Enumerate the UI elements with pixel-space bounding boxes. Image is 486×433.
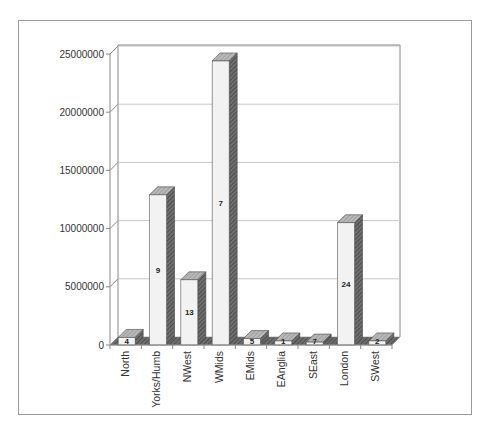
bar-wmids: 7 <box>212 53 237 345</box>
bar-chart-3d: 0500000010000000150000002000000025000000… <box>0 0 486 433</box>
x-category-label: WMids <box>213 351 225 383</box>
bar-nwest: 13 <box>181 272 206 345</box>
y-tick-label: 25000000 <box>60 49 105 60</box>
x-category-label: SEast <box>307 351 319 379</box>
bar-data-label: 1 <box>281 337 286 346</box>
bar-data-label: 4 <box>124 337 129 346</box>
x-category-label: EAnglia <box>275 351 287 387</box>
y-tick-label: 0 <box>98 340 104 351</box>
bar-data-label: 13 <box>185 308 194 317</box>
bar-london: 24 <box>338 215 363 345</box>
bar-data-label: 24 <box>342 280 351 289</box>
x-category-label: London <box>338 351 350 386</box>
x-axis: NorthYorks/HumbNWestWMidsEMidsEAngliaSEa… <box>110 345 392 408</box>
x-category-label: NWest <box>181 351 193 382</box>
y-tick-label: 15000000 <box>60 165 105 176</box>
bar-data-label: 2 <box>375 337 380 346</box>
y-tick-label: 10000000 <box>60 223 105 234</box>
bar-yorks-humb: 9 <box>150 187 175 345</box>
x-category-label: North <box>119 351 131 377</box>
y-tick-label: 5000000 <box>65 281 104 292</box>
x-category-label: EMids <box>244 351 256 380</box>
x-category-label: Yorks/Humb <box>150 351 162 408</box>
bar-data-label: 9 <box>156 266 161 275</box>
x-category-label: SWest <box>369 351 381 382</box>
y-axis: 0500000010000000150000002000000025000000 <box>60 46 119 351</box>
y-tick-label: 20000000 <box>60 107 105 118</box>
bar-data-label: 7 <box>218 199 223 208</box>
bar-data-label: 5 <box>250 337 255 346</box>
bar-data-label: 7 <box>312 337 317 346</box>
bars: 49137517242 <box>118 53 394 346</box>
